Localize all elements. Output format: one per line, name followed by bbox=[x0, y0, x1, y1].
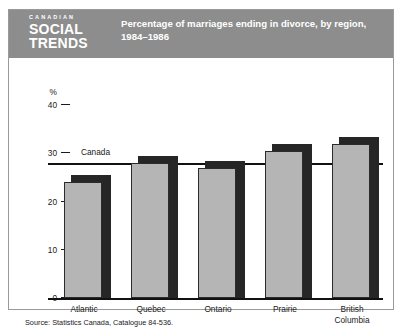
x-label-atlantic: Atlantic bbox=[54, 304, 114, 315]
x-label-quebec-line1: Quebec bbox=[121, 304, 181, 315]
bar-prairie-face bbox=[265, 151, 303, 298]
logo-kicker: CANADIAN bbox=[29, 15, 113, 21]
bar-british-columbia-shadow bbox=[370, 144, 379, 298]
y-axis-unit-label: % bbox=[9, 87, 57, 97]
bar-british-columbia-top bbox=[339, 137, 379, 144]
bar-atlantic-face bbox=[64, 182, 102, 298]
bar-ontario-top bbox=[205, 161, 245, 168]
bar-atlantic-shadow bbox=[102, 182, 111, 298]
bar-british-columbia-face bbox=[332, 144, 370, 298]
x-label-prairie: Prairie bbox=[255, 304, 315, 315]
y-tick-30-label: 30 bbox=[48, 148, 57, 158]
bar-atlantic bbox=[64, 175, 111, 298]
bar-quebec-face bbox=[131, 163, 169, 298]
bar-atlantic-top bbox=[71, 175, 111, 182]
bar-quebec-top bbox=[138, 156, 178, 163]
x-label-atlantic-line1: Atlantic bbox=[54, 304, 114, 315]
y-tick-10: 10 bbox=[9, 245, 57, 255]
y-tick-30-dash bbox=[61, 152, 70, 153]
y-tick-20-label: 20 bbox=[48, 197, 57, 207]
y-tick-40-dash bbox=[61, 104, 70, 105]
bar-quebec bbox=[131, 156, 178, 298]
bar-quebec-shadow bbox=[169, 163, 178, 298]
x-label-quebec: Quebec bbox=[121, 304, 181, 315]
logo-line-social: SOCIAL bbox=[29, 22, 113, 37]
x-label-prairie-line1: Prairie bbox=[255, 304, 315, 315]
canadian-social-trends-logo: CANADIAN SOCIAL TRENDS bbox=[29, 15, 113, 51]
plot-area: % 40 30 20 10 0 Canada bbox=[9, 58, 393, 311]
figure-header-band: CANADIAN SOCIAL TRENDS Percentage of mar… bbox=[9, 10, 393, 58]
y-tick-20: 20 bbox=[9, 197, 57, 207]
bar-prairie-top bbox=[272, 144, 312, 151]
bar-ontario-shadow bbox=[236, 168, 245, 298]
x-label-ontario: Ontario bbox=[188, 304, 248, 315]
canada-reference-label: Canada bbox=[81, 147, 110, 157]
y-tick-30: 30 bbox=[9, 148, 57, 158]
x-label-british-columbia-line2: Columbia bbox=[322, 315, 382, 326]
x-label-british-columbia: British Columbia bbox=[322, 304, 382, 325]
bar-prairie-shadow bbox=[303, 151, 312, 298]
x-label-british-columbia-line1: British bbox=[322, 304, 382, 315]
y-tick-40: 40 bbox=[9, 100, 57, 110]
y-tick-40-label: 40 bbox=[48, 100, 57, 110]
bar-prairie bbox=[265, 144, 312, 298]
bar-ontario-face bbox=[198, 168, 236, 298]
source-note: Source: Statistics Canada, Catalogue 84-… bbox=[25, 318, 173, 327]
x-axis-baseline bbox=[48, 298, 383, 300]
x-label-ontario-line1: Ontario bbox=[188, 304, 248, 315]
y-tick-10-label: 10 bbox=[48, 245, 57, 255]
bar-ontario bbox=[198, 161, 245, 298]
chart-figure: CANADIAN SOCIAL TRENDS Percentage of mar… bbox=[8, 9, 394, 310]
logo-line-trends: TRENDS bbox=[29, 36, 113, 51]
chart-title: Percentage of marriages ending in divorc… bbox=[121, 17, 381, 43]
bar-british-columbia bbox=[332, 137, 379, 298]
